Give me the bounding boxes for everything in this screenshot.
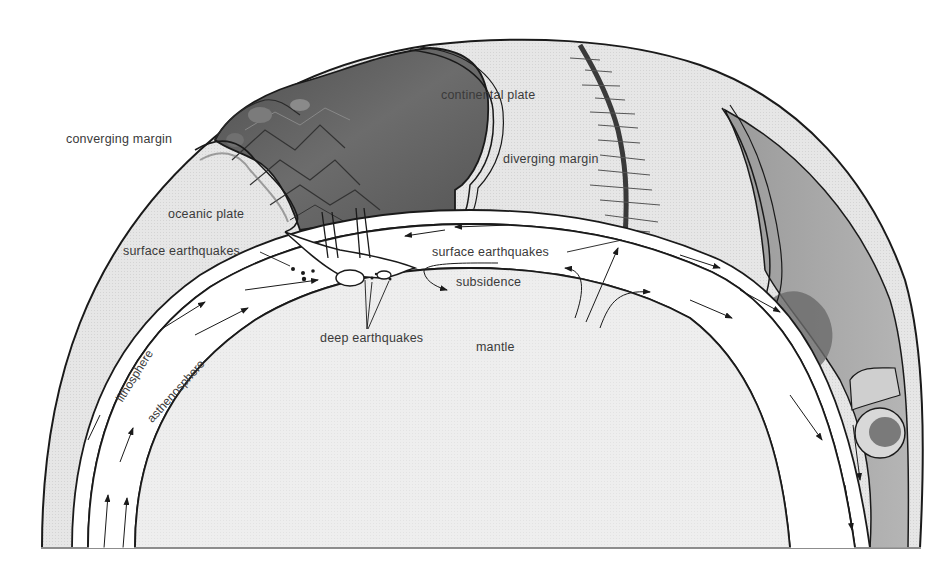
label-mantle: mantle [476,340,515,354]
label-continental-plate: continental plate [441,88,535,102]
label-surface-earthquakes-left: surface earthquakes [123,244,240,258]
label-converging-margin: converging margin [66,132,172,146]
label-deep-earthquakes: deep earthquakes [320,331,423,345]
label-oceanic-plate: oceanic plate [168,207,244,221]
label-diverging-margin: diverging margin [503,152,599,166]
label-subsidence: subsidence [456,275,521,289]
label-surface-earthquakes-right: surface earthquakes [432,245,549,259]
